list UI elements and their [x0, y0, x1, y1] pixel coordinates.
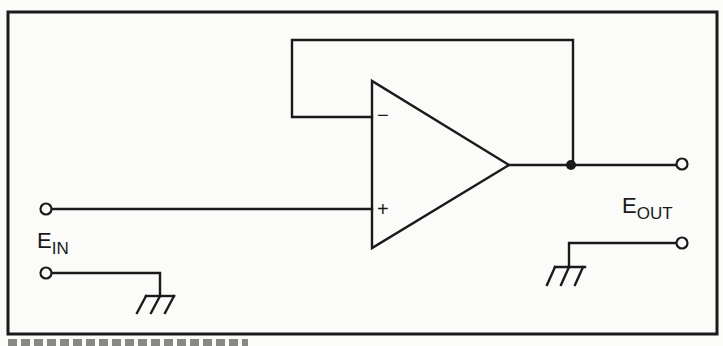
input-label-main: E — [37, 228, 52, 253]
output-label-sub: OUT — [637, 204, 673, 223]
junction-dot — [566, 160, 576, 170]
op-amp-triangle — [372, 81, 509, 248]
output-ground-terminal — [677, 238, 688, 249]
figure-caption-cutoff — [8, 339, 248, 346]
circuit-diagram — [0, 0, 723, 346]
diagram-frame — [8, 12, 717, 334]
input-ground-icon — [137, 296, 174, 313]
input-label-sub: IN — [52, 239, 69, 258]
output-label-main: E — [622, 193, 637, 218]
inverting-input-sign: − — [377, 105, 389, 125]
output-ground-icon — [547, 267, 585, 285]
output-ground-wire — [569, 243, 677, 267]
output-label: EOUT — [622, 193, 673, 219]
input-signal-terminal — [41, 204, 52, 215]
non-inverting-input-sign: + — [377, 199, 389, 219]
input-label: EIN — [37, 228, 69, 254]
input-ground-terminal — [41, 268, 52, 279]
output-signal-terminal — [677, 159, 688, 170]
input-ground-wire — [51, 273, 160, 296]
feedback-wire — [292, 40, 573, 165]
